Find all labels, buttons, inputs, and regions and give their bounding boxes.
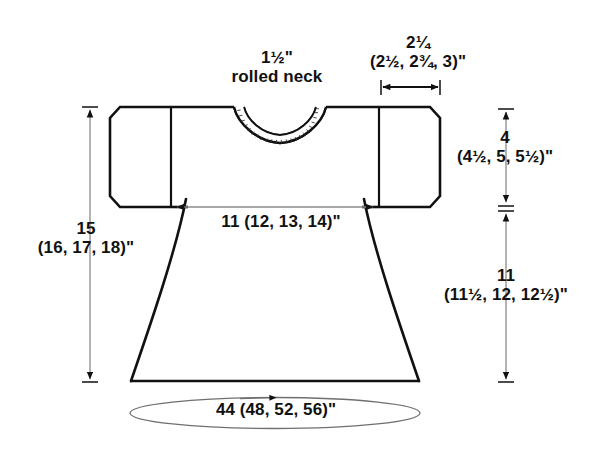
label-chest-width: 11 (12, 13, 14)" <box>175 212 387 231</box>
label-rolled-neck: 1½" rolled neck <box>197 48 357 86</box>
label-total-length-alt: (16, 17, 18)" <box>12 238 160 257</box>
label-sleeve-width: 2¼ (2½, 2¾, 3)" <box>337 33 499 71</box>
label-sleeve-length-main: 4 <box>423 128 587 147</box>
label-body-length: 11 (11½, 12, 12½)" <box>420 266 592 304</box>
label-sleeve-length: 4 (4½, 5, 5½)" <box>423 128 587 166</box>
label-total-length-main: 15 <box>12 219 160 238</box>
label-sleeve-width-alt: (2½, 2¾, 3)" <box>337 52 499 71</box>
label-rolled-neck-main: 1½" <box>197 48 357 67</box>
left-sleeve-outline <box>110 107 171 207</box>
garment-schematic: 1½" rolled neck 2¼ (2½, 2¾, 3)" 11 (12, … <box>0 0 598 457</box>
dimension-sleeve-width <box>381 80 440 95</box>
rolled-neck-band <box>234 107 326 143</box>
label-hem-circumference: 44 (48, 52, 56)" <box>165 400 387 419</box>
label-rolled-neck-alt: rolled neck <box>197 67 357 86</box>
label-sleeve-length-alt: (4½, 5, 5½)" <box>423 147 587 166</box>
rolled-neck <box>234 107 326 143</box>
label-total-length: 15 (16, 17, 18)" <box>12 219 160 257</box>
label-sleeve-width-main: 2¼ <box>337 33 499 52</box>
label-body-length-main: 11 <box>420 266 592 285</box>
label-body-length-alt: (11½, 12, 12½)" <box>420 285 592 304</box>
